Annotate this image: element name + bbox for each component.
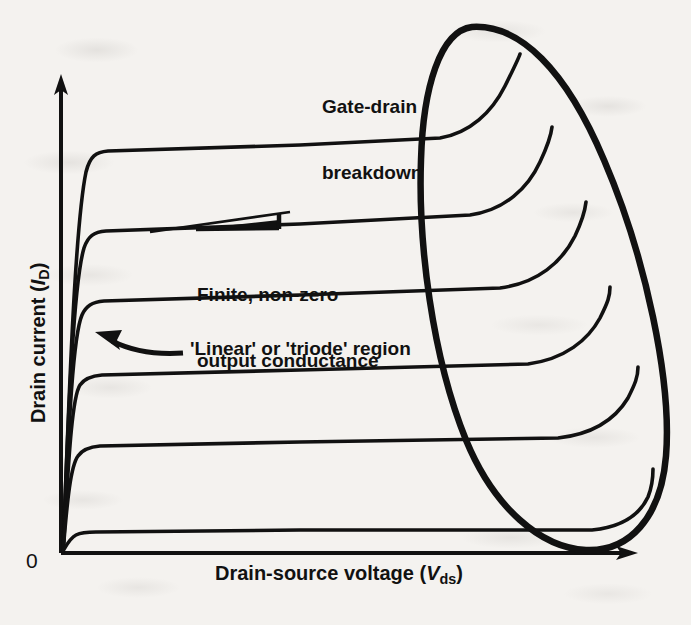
x-axis-label-symbol: V xyxy=(426,562,439,584)
y-axis-label: Drain current (ID) xyxy=(27,223,53,463)
gate-drain-breakdown-line-1: Gate-drain xyxy=(322,96,422,118)
y-axis-label-close: ) xyxy=(27,263,49,270)
triode-arrow-head xyxy=(95,330,122,350)
origin-label: 0 xyxy=(26,549,38,573)
gate-drain-breakdown-line-2: breakdown xyxy=(322,162,422,184)
curve-6-lowest-vgs xyxy=(63,469,653,551)
x-axis-label-close: ) xyxy=(456,562,463,584)
y-axis-label-symbol: I xyxy=(27,280,49,286)
x-axis-label-subscript: ds xyxy=(440,571,457,587)
x-axis-label: Drain-source voltage (Vds) xyxy=(215,562,463,588)
y-axis-label-subscript: D xyxy=(36,269,52,279)
annotation-gate-drain-breakdown: Gate-drain breakdown xyxy=(322,52,422,228)
y-axis-label-text: Drain current ( xyxy=(27,285,49,423)
figure-root: Gate-drain breakdown Finite, non-zero ou… xyxy=(0,0,691,625)
output-conductance-wedge-indicator xyxy=(150,212,290,232)
annotation-output-conductance: Finite, non-zero output conductance xyxy=(197,240,379,416)
triode-region-callout-arrow xyxy=(95,330,183,353)
triode-arrow-shaft xyxy=(112,341,183,353)
annotation-triode-region: 'Linear' or 'triode' region xyxy=(190,338,411,360)
output-conductance-line-1: Finite, non-zero xyxy=(197,284,379,306)
x-axis-label-text: Drain-source voltage ( xyxy=(215,562,426,584)
